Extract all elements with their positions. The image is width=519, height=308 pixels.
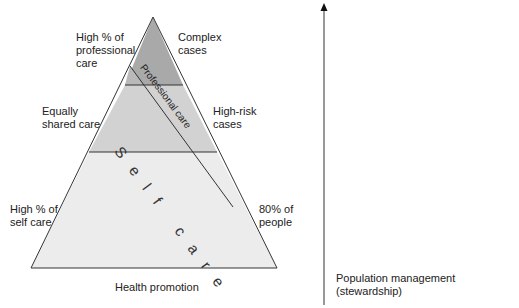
label-complex-cases: Complex cases xyxy=(178,31,221,57)
label-line: 80% of xyxy=(259,203,293,216)
label-line: Complex xyxy=(178,31,221,44)
label-line: cases xyxy=(178,44,221,57)
label-line: self care xyxy=(10,216,58,229)
label-high-professional-care: High % of professional care xyxy=(76,31,135,70)
label-line: High-risk xyxy=(213,105,256,118)
label-80-percent-people: 80% of people xyxy=(259,203,293,229)
middle-band xyxy=(89,85,217,152)
label-line: Equally xyxy=(42,105,100,118)
label-line: High % of xyxy=(10,203,58,216)
label-line: care xyxy=(76,57,135,70)
label-line: cases xyxy=(213,118,256,131)
label-line: High % of xyxy=(76,31,135,44)
population-management-label: Population management (stewardship) xyxy=(336,272,519,298)
health-promotion-label: Health promotion xyxy=(115,281,199,294)
label-high-self-care: High % of self care xyxy=(10,203,58,229)
arrow-up-icon xyxy=(321,3,328,11)
label-line: people xyxy=(259,216,293,229)
label-line: shared care xyxy=(42,118,100,131)
label-equally-shared-care: Equally shared care xyxy=(42,105,100,131)
label-high-risk-cases: High-risk cases xyxy=(213,105,256,131)
label-line: professional xyxy=(76,44,135,57)
